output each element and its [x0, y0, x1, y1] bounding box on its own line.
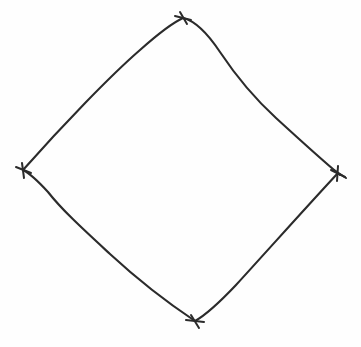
cross-tick-icon: [337, 166, 338, 181]
figure-canvas: [0, 0, 361, 347]
diamond-figure-svg: [0, 0, 361, 347]
figure-background: [0, 0, 361, 347]
